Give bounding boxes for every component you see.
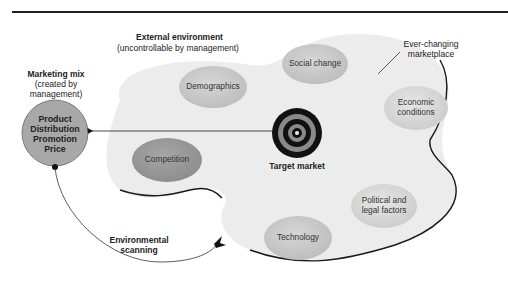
mix-item-distribution: Distribution xyxy=(22,124,88,134)
scanning-line2: scanning xyxy=(106,246,172,256)
mix-item-promotion: Promotion xyxy=(22,134,88,144)
marketing-mix-items: Product Distribution Promotion Price xyxy=(22,114,88,154)
environmental-scanning-label: Environmental scanning xyxy=(106,236,172,256)
marketing-mix-sub2: management) xyxy=(20,90,92,100)
factor-social-change: Social change xyxy=(282,44,348,84)
scanning-plug-icon xyxy=(214,236,226,248)
marketplace-line2: marketplace xyxy=(396,50,466,60)
factor-social-change-text: Social change xyxy=(289,59,341,69)
mix-item-price: Price xyxy=(22,144,88,154)
factor-demographics-text: Demographics xyxy=(186,82,240,92)
factor-demographics: Demographics xyxy=(179,66,247,108)
marketplace-label: Ever-changing marketplace xyxy=(396,40,466,60)
factor-competition: Competition xyxy=(132,138,202,182)
factor-economic-line2: conditions xyxy=(397,108,434,118)
factor-political-legal: Political and legal factors xyxy=(351,184,417,228)
factor-technology: Technology xyxy=(264,216,332,260)
external-environment-heading: External environment xyxy=(136,33,223,43)
factor-technology-text: Technology xyxy=(277,233,319,243)
factor-competition-text: Competition xyxy=(145,155,189,165)
marketing-mix-label: Marketing mix (created by management) xyxy=(20,70,92,99)
target-bullseye-icon xyxy=(272,108,322,158)
factor-political-line2: legal factors xyxy=(362,206,407,216)
target-market-label: Target market xyxy=(267,162,327,172)
external-environment-subheading: (uncontrollable by management) xyxy=(117,44,239,54)
factor-economic-conditions: Economic conditions xyxy=(384,86,448,130)
mix-item-product: Product xyxy=(22,114,88,124)
